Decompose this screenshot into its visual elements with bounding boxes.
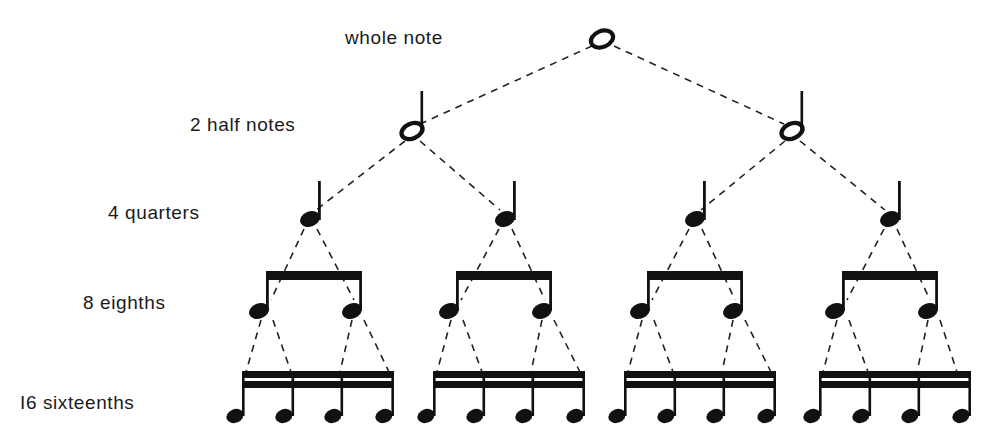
note-whole xyxy=(588,27,615,50)
eighth-group-3 xyxy=(628,271,746,322)
connector-half-to-quarter xyxy=(316,141,885,210)
diagram-canvas: whole note 2 half notes 4 quarters 8 eig… xyxy=(0,0,989,441)
connector-whole-to-half xyxy=(420,46,784,124)
note-quarter-2 xyxy=(493,181,518,230)
note-half-1 xyxy=(399,91,425,142)
eighth-group-4 xyxy=(823,271,941,322)
note-quarter-3 xyxy=(683,181,708,230)
connector-lines xyxy=(246,46,957,372)
eighth-group-2 xyxy=(437,271,555,322)
note-quarter-1 xyxy=(298,181,323,230)
sixteenth-group-2 xyxy=(415,371,585,426)
sixteenth-group-1 xyxy=(224,371,394,426)
note-half-2 xyxy=(779,91,805,142)
note-quarter-4 xyxy=(878,181,903,230)
connector-eighth-to-sixteenth xyxy=(246,320,957,372)
note-tree-graphic xyxy=(0,0,989,441)
eighth-group-1 xyxy=(247,271,365,322)
sixteenth-group-4 xyxy=(801,371,971,426)
connector-quarter-to-eighth xyxy=(271,229,930,300)
sixteenth-group-3 xyxy=(606,371,776,426)
